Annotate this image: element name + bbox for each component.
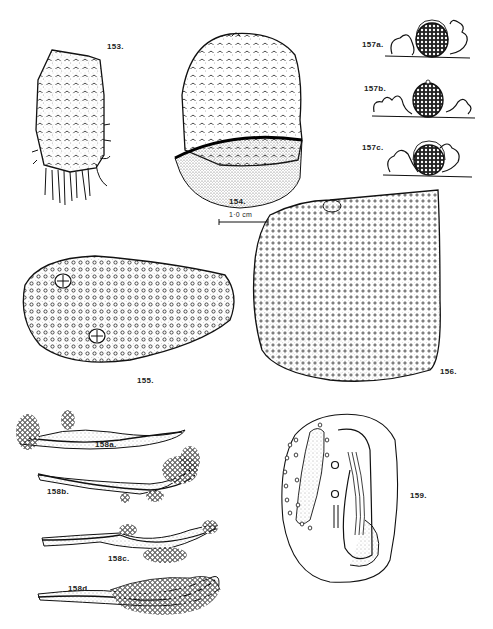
figure-158d xyxy=(38,577,220,616)
plate-drawings xyxy=(0,0,493,629)
figure-label-156: 156. xyxy=(440,367,457,376)
figure-156 xyxy=(254,190,441,381)
figure-label-157c: 157c. xyxy=(362,143,384,152)
figure-154 xyxy=(175,33,302,208)
figure-label-159: 159. xyxy=(410,491,427,500)
figure-label-158b: 158b. xyxy=(47,487,69,496)
figure-157a xyxy=(385,20,470,58)
figure-label-154: 154. xyxy=(229,197,246,206)
figure-155 xyxy=(23,256,234,362)
figure-label-157b: 157b. xyxy=(364,84,386,93)
scale-bar-label: 1·0 cm xyxy=(229,211,252,218)
figure-157c xyxy=(383,141,472,177)
figure-label-155: 155. xyxy=(137,376,154,385)
figure-label-158d: 158d. xyxy=(68,584,90,593)
scale-bar xyxy=(219,219,268,225)
figure-153 xyxy=(32,50,111,205)
figure-label-158a: 158a. xyxy=(95,440,117,449)
figure-label-157a: 157a. xyxy=(362,40,384,49)
figure-label-158c: 158c. xyxy=(108,554,130,563)
illustration-plate: 153. 154. 1·0 cm 157a. 157b. 157c. 155. … xyxy=(0,0,493,629)
figure-label-153: 153. xyxy=(107,42,124,51)
figure-157b xyxy=(372,80,475,118)
figure-159 xyxy=(282,414,398,582)
figure-158c xyxy=(42,520,218,563)
